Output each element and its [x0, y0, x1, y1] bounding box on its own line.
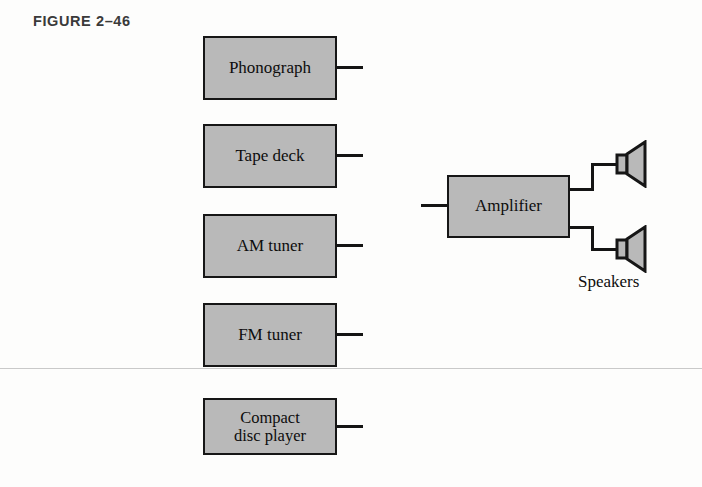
- block-compact-disc-player-label-line2: disc player: [234, 427, 306, 445]
- block-compact-disc-player-label: Compact disc player: [234, 409, 306, 445]
- block-phonograph: Phonograph: [203, 36, 337, 100]
- figure-title: FIGURE 2–46: [33, 13, 131, 29]
- wire-am-tuner-out: [337, 244, 363, 247]
- wire-feed-speaker-bottom: [591, 248, 617, 251]
- block-compact-disc-player: Compact disc player: [203, 398, 337, 455]
- wire-amp-out-top: [570, 188, 594, 191]
- speaker-icon-top: [615, 140, 653, 188]
- figure-canvas: FIGURE 2–46 Phonograph Tape deck AM tune…: [0, 0, 702, 487]
- wire-riser-top: [591, 163, 594, 191]
- block-fm-tuner-label: FM tuner: [238, 326, 302, 344]
- block-am-tuner-label: AM tuner: [237, 237, 304, 255]
- wire-feed-speaker-top: [591, 163, 617, 166]
- wire-phonograph-out: [337, 66, 363, 69]
- wire-amplifier-in: [421, 204, 448, 207]
- wire-compact-disc-player-out: [337, 425, 363, 428]
- wire-fm-tuner-out: [337, 333, 363, 336]
- wire-amp-out-bottom: [570, 226, 594, 229]
- wire-tape-deck-out: [337, 154, 363, 157]
- block-fm-tuner: FM tuner: [203, 303, 337, 367]
- block-am-tuner: AM tuner: [203, 214, 337, 278]
- speakers-label: Speakers: [578, 272, 639, 292]
- block-phonograph-label: Phonograph: [229, 59, 311, 77]
- block-tape-deck-label: Tape deck: [235, 147, 304, 165]
- block-tape-deck: Tape deck: [203, 124, 337, 188]
- block-compact-disc-player-label-line1: Compact: [240, 408, 300, 427]
- block-amplifier-label: Amplifier: [475, 197, 542, 215]
- scan-artifact-line: [0, 368, 702, 369]
- block-amplifier: Amplifier: [447, 175, 570, 238]
- speaker-icon-bottom: [615, 225, 653, 273]
